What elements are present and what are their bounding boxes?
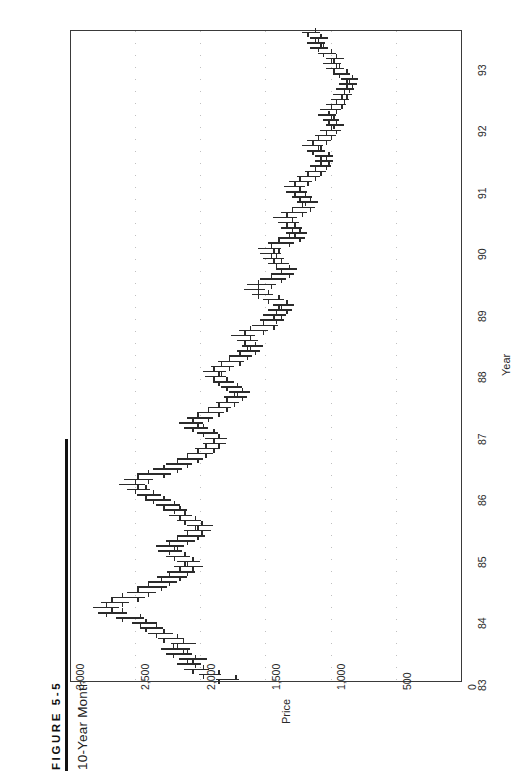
ohlc-range [268,309,292,311]
ohlc-close-tick [218,382,219,386]
ohlc-range [205,376,226,378]
ohlc-open-tick [177,460,178,464]
ohlc-close-tick [318,146,319,150]
ohlc-open-tick [239,352,240,356]
year-tick-label: 89 [476,310,488,322]
ohlc-open-tick [218,434,219,438]
ohlc-range [315,155,333,157]
ohlc-open-tick [310,198,311,202]
ohlc-close-tick [163,474,164,478]
ohlc-range [101,602,130,604]
ohlc-range [307,42,325,44]
ohlc-open-tick [318,39,319,43]
ohlc-close-tick [242,397,243,401]
year-tick-label: 90 [476,249,488,261]
ohlc-open-tick [273,316,274,320]
price-tick-label: 2,000 [205,664,217,690]
price-tick-label: 3,000 [74,664,86,690]
ohlc-close-tick [281,315,282,319]
ohlc-close-tick [294,192,295,196]
ohlc-close-tick [294,233,295,237]
ohlc-range [156,504,181,506]
ohlc-range [286,232,307,234]
ohlc-close-tick [183,649,184,653]
ohlc-open-tick [273,249,274,253]
ohlc-range [273,217,297,219]
ohlc-range [341,78,358,80]
ohlc-close-tick [208,418,209,422]
ohlc-open-tick [195,516,196,520]
ohlc-close-tick [289,274,290,278]
price-tick-label: 500 [401,672,413,690]
ohlc-close-tick [278,248,279,252]
ohlc-open-tick [192,419,193,423]
ohlc-open-tick [234,393,235,397]
ohlc-open-tick [244,331,245,335]
ohlc-range [263,314,287,316]
ohlc-open-tick [242,388,243,392]
ohlc-open-tick [331,49,332,53]
ohlc-open-tick [307,172,308,176]
ohlc-close-tick [213,377,214,381]
ohlc-open-tick [336,100,337,104]
ohlc-open-tick [294,223,295,227]
ohlc-close-tick [239,361,240,365]
ohlc-open-tick [328,111,329,115]
ohlc-close-tick [122,602,123,606]
ohlc-range [187,525,213,527]
ohlc-range [276,268,297,270]
ohlc-open-tick [197,413,198,417]
ohlc-range [318,114,336,116]
ohlc-open-tick [346,69,347,73]
ohlc-open-tick [137,475,138,479]
ohlc-close-tick [184,561,185,565]
ohlc-close-tick [169,582,170,586]
ohlc-range [137,586,167,588]
ohlc-close-tick [250,335,251,339]
ohlc-open-tick [320,34,321,38]
ohlc-open-tick [163,496,164,500]
ohlc-open-tick [333,59,334,63]
ohlc-range [263,299,284,301]
ohlc-open-tick [299,177,300,181]
ohlc-open-tick [177,634,178,638]
ohlc-open-tick [344,90,345,94]
ohlc-close-tick [307,33,308,37]
ohlc-range [336,88,354,90]
ohlc-close-tick [344,99,345,103]
ohlc-open-tick [195,655,196,659]
ohlc-close-tick [346,79,347,83]
ohlc-open-tick [187,454,188,458]
ohlc-open-tick [278,239,279,243]
ohlc-open-tick [331,105,332,109]
ohlc-open-tick [197,526,198,530]
ohlc-close-tick [289,243,290,247]
ohlc-close-tick [258,289,259,293]
ohlc-range [167,571,194,573]
ohlc-open-tick [163,465,164,469]
ohlc-close-tick [278,305,279,309]
ohlc-open-tick [326,131,327,135]
ohlc-open-tick [213,429,214,433]
ohlc-open-tick [145,485,146,489]
ohlc-open-tick [179,506,180,510]
ohlc-close-tick [148,592,149,596]
ohlc-close-tick [299,187,300,191]
ohlc-open-tick [122,593,123,597]
ohlc-close-tick [307,181,308,185]
ohlc-range [268,263,289,265]
ohlc-open-tick [276,311,277,315]
ohlc-close-tick [111,608,112,612]
ohlc-range [286,191,307,193]
ohlc-range [177,561,201,563]
ohlc-open-tick [336,54,337,58]
ohlc-close-tick [229,366,230,370]
ohlc-open-tick [145,619,146,623]
ohlc-close-tick [299,238,300,242]
ohlc-open-tick [183,639,184,643]
ohlc-close-tick [237,392,238,396]
ohlc-open-tick [205,444,206,448]
ohlc-range [184,427,208,429]
ohlc-close-tick [271,284,272,288]
ohlc-range [205,438,227,440]
